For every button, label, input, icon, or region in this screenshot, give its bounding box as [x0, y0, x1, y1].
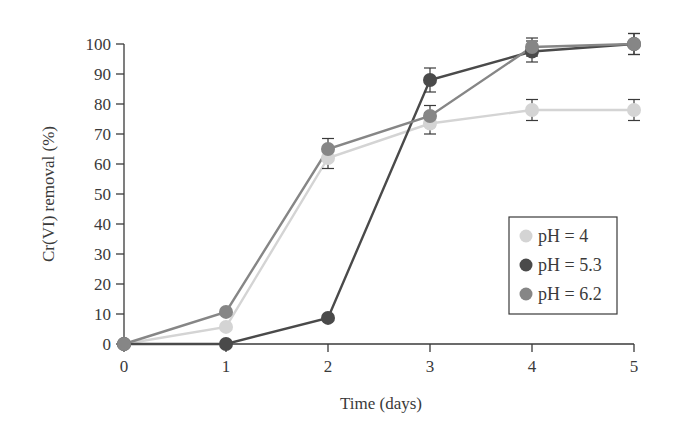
data-point — [219, 305, 233, 319]
legend-marker — [520, 288, 533, 301]
y-axis-title: Cr(VI) removal (%) — [39, 126, 58, 262]
x-tick-label: 3 — [426, 357, 435, 376]
data-point — [525, 40, 539, 54]
data-point — [117, 337, 131, 351]
x-tick-label: 0 — [120, 357, 129, 376]
y-tick-label: 30 — [94, 245, 111, 264]
line-chart: 0102030405060708090100012345Time (days)C… — [0, 0, 677, 435]
y-tick-label: 0 — [103, 335, 112, 354]
x-tick-label: 4 — [528, 357, 537, 376]
data-point — [627, 103, 641, 117]
y-tick-label: 80 — [94, 95, 111, 114]
legend-marker — [520, 230, 533, 243]
data-point — [321, 311, 335, 325]
y-tick-label: 50 — [94, 185, 111, 204]
legend: pH = 4pH = 5.3pH = 6.2 — [509, 217, 617, 314]
y-tick-label: 40 — [94, 215, 111, 234]
y-tick-label: 10 — [94, 305, 111, 324]
legend-label: pH = 6.2 — [538, 284, 602, 304]
data-point — [423, 73, 437, 87]
y-tick-label: 70 — [94, 125, 111, 144]
y-tick-label: 90 — [94, 65, 111, 84]
x-tick-label: 2 — [324, 357, 333, 376]
data-point — [525, 103, 539, 117]
x-axis-title: Time (days) — [340, 394, 422, 413]
y-tick-label: 100 — [86, 35, 112, 54]
x-tick-label: 1 — [222, 357, 231, 376]
y-tick-label: 60 — [94, 155, 111, 174]
data-point — [219, 337, 233, 351]
legend-label: pH = 4 — [538, 226, 588, 246]
data-point — [321, 142, 335, 156]
legend-marker — [520, 259, 533, 272]
legend-label: pH = 5.3 — [538, 255, 602, 275]
data-point — [423, 109, 437, 123]
y-tick-label: 20 — [94, 275, 111, 294]
data-point — [219, 320, 233, 334]
data-point — [627, 37, 641, 51]
x-tick-label: 5 — [630, 357, 639, 376]
